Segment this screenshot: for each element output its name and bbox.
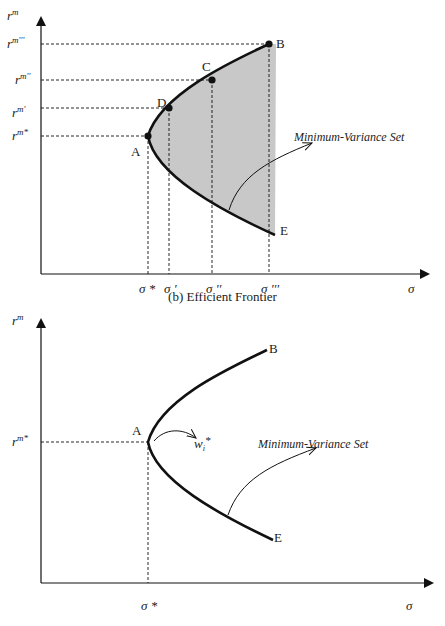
label-c: C bbox=[202, 59, 211, 74]
label-a: A bbox=[131, 144, 141, 159]
bottom-chart: A B E wi* Minimum-Variance Set rm rm* σ … bbox=[12, 312, 432, 613]
y-axis-label: rm bbox=[7, 7, 19, 23]
label-e: E bbox=[274, 530, 282, 545]
efficient-frontier-figure: A B C D E Minimum-Variance Set rm rm''' … bbox=[0, 0, 445, 626]
top-chart: A B C D E Minimum-Variance Set rm rm''' … bbox=[7, 7, 428, 296]
label-d: D bbox=[157, 95, 166, 110]
y-tick-r-m-triple-prime: rm''' bbox=[7, 35, 25, 51]
figure-caption: (b) Efficient Frontier bbox=[0, 289, 445, 305]
label-b: B bbox=[269, 341, 278, 356]
annotation-min-variance-set: Minimum-Variance Set bbox=[293, 130, 405, 144]
label-a: A bbox=[132, 423, 142, 438]
annotation-min-variance-set: Minimum-Variance Set bbox=[257, 437, 369, 451]
point-b bbox=[265, 40, 272, 47]
label-e: E bbox=[280, 223, 288, 238]
weight-arrow bbox=[154, 431, 196, 441]
point-a bbox=[144, 132, 151, 139]
x-axis-label: σ bbox=[406, 598, 413, 613]
y-tick-r-m-star: rm* bbox=[12, 433, 29, 449]
label-b: B bbox=[276, 36, 285, 51]
y-tick-r-m-double-prime: rm'' bbox=[15, 71, 31, 87]
point-d bbox=[165, 104, 172, 111]
y-tick-r-m-star: rm* bbox=[12, 127, 29, 143]
y-tick-r-m-prime: rm' bbox=[12, 104, 27, 120]
x-tick-sigma-star: σ * bbox=[141, 598, 158, 613]
minimum-variance-curve bbox=[148, 350, 273, 540]
point-c bbox=[208, 76, 215, 83]
weight-label: wi* bbox=[194, 434, 211, 453]
y-axis-label: rm bbox=[12, 312, 24, 328]
annotation-arrow bbox=[228, 448, 316, 515]
